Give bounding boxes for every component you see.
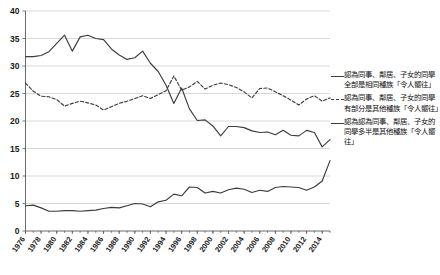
x-axis-labels-group: 1976197819801982198419861988199019921994… bbox=[10, 234, 324, 254]
y-axis-tick-label: 15 bbox=[10, 144, 20, 154]
legend-line-swatch-solid-2 bbox=[331, 119, 344, 128]
x-axis-tick-label: 1990 bbox=[119, 235, 136, 254]
x-axis-tick-label: 2012 bbox=[291, 235, 308, 254]
x-axis-tick-label: 2014 bbox=[307, 234, 325, 254]
y-axis-tick-label: 40 bbox=[10, 6, 20, 16]
legend-line-swatch-dashed bbox=[331, 95, 344, 104]
legend-label-some-other-race: 認為同事、鄰居、子女的同學有部分是其他種族「令人嚮往」 bbox=[344, 93, 439, 113]
x-axis-tick-label: 2006 bbox=[244, 235, 261, 254]
x-axis-tick-label: 1996 bbox=[166, 235, 183, 254]
legend-line-swatch-solid bbox=[331, 72, 344, 81]
y-axis-tick-label: 20 bbox=[10, 116, 20, 126]
chart-legend: 認為同事、鄰居、子女的同學全部是相同種族「令人嚮往」 認為同事、鄰居、子女的同學… bbox=[331, 70, 439, 150]
x-axis-tick-label: 2008 bbox=[260, 235, 277, 254]
legend-label-all-same-race: 認為同事、鄰居、子女的同學全部是相同種族「令人嚮往」 bbox=[344, 70, 439, 90]
x-axis-tick-label: 1998 bbox=[182, 235, 199, 254]
y-axis-tick-label: 5 bbox=[15, 199, 20, 209]
legend-label-mostly-other-race: 認為認為同事、鄰居、子女的同學多半是其他種族「令人嚮往」 bbox=[344, 117, 439, 148]
y-axis-tick-label: 10 bbox=[10, 171, 20, 181]
y-axis-labels-group: 0510152025303540 bbox=[10, 6, 20, 236]
x-axis-tick-label: 1992 bbox=[135, 235, 152, 254]
y-axis-tick-label: 30 bbox=[10, 61, 20, 71]
x-axis-tick-label: 1976 bbox=[10, 235, 27, 254]
x-axis-tick-label: 1984 bbox=[73, 234, 91, 254]
x-axis-tick-label: 1982 bbox=[57, 235, 74, 254]
x-axis-tick-label: 2002 bbox=[213, 235, 230, 254]
chart-container: 0510152025303540 19761978198019821984198… bbox=[0, 0, 440, 275]
legend-item-some-other-race: 認為同事、鄰居、子女的同學有部分是其他種族「令人嚮往」 bbox=[331, 93, 439, 113]
series-line-2 bbox=[26, 76, 331, 110]
x-axis-tick-label: 1988 bbox=[104, 235, 121, 254]
y-axis-tick-label: 25 bbox=[10, 89, 20, 99]
legend-item-mostly-other-race: 認為認為同事、鄰居、子女的同學多半是其他種族「令人嚮往」 bbox=[331, 117, 439, 148]
legend-item-all-same-race: 認為同事、鄰居、子女的同學全部是相同種族「令人嚮往」 bbox=[331, 70, 439, 90]
y-axis-tick-label: 35 bbox=[10, 34, 20, 44]
series-line-1 bbox=[26, 35, 331, 147]
x-axis-tick-label: 2000 bbox=[197, 235, 214, 254]
x-axis-tick-label: 1980 bbox=[41, 235, 58, 254]
data-series-group bbox=[26, 35, 331, 211]
x-axis-tick-label: 2010 bbox=[276, 235, 293, 254]
x-axis-tick-label: 1994 bbox=[151, 234, 169, 254]
x-axis-tick-label: 1986 bbox=[88, 235, 105, 254]
x-axis-tick-label: 2004 bbox=[229, 234, 247, 254]
x-axis-tick-label: 1978 bbox=[26, 235, 43, 254]
